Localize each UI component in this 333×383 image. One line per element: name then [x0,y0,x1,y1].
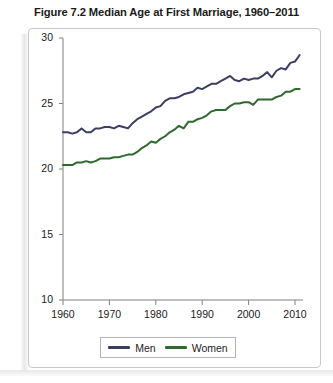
x-axis-tick-label: 1980 [134,308,178,320]
y-axis-tick-label: 25 [21,97,53,109]
chart-legend: Men Women [100,337,236,358]
legend-label-men: Men [135,342,155,354]
legend-entry-women: Women [165,342,228,354]
x-axis-tick-label: 1960 [41,308,85,320]
x-axis-tick-label: 2010 [273,308,317,320]
series-line-women [63,89,300,165]
figure-page: Figure 7.2 Median Age at First Marriage,… [0,0,333,383]
legend-swatch-women [165,346,187,349]
x-axis-tick-label: 2000 [227,308,271,320]
legend-label-women: Women [192,342,228,354]
legend-swatch-men [108,346,130,349]
y-axis-tick-label: 15 [21,228,53,240]
x-axis-tick-label: 1990 [180,308,224,320]
x-axis-tick-label: 1970 [87,308,131,320]
y-axis-tick-label: 20 [21,162,53,174]
y-axis-tick-label: 30 [21,31,53,43]
series-layer [63,55,300,165]
axis-layer [59,38,303,305]
series-line-men [63,55,300,134]
y-axis-tick-label: 10 [21,293,53,305]
line-chart [0,0,333,383]
legend-entry-men: Men [108,342,155,354]
